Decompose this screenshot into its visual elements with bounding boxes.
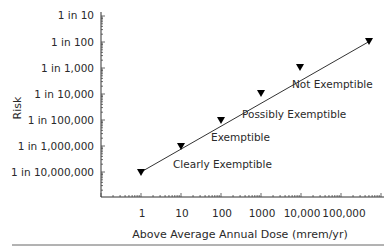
x-tick-label: 1 — [139, 207, 146, 219]
data-line — [141, 41, 370, 172]
x-tick-label: 1000 — [249, 207, 276, 219]
y-tick-label: 1 in 1,000 — [41, 62, 94, 74]
y-ticks — [101, 16, 105, 190]
annotation-exemptible: Exemptible — [211, 131, 270, 143]
chart: 1 in 10 1 in 100 1 in 1,000 1 in 10,000 … — [0, 0, 391, 247]
x-tick-label: 10,000 — [284, 207, 321, 219]
x-tick-label: 100 — [212, 207, 232, 219]
y-tick-label: 1 in 10,000,000 — [11, 166, 94, 178]
annotation-possibly-exemptible: Possibly Exemptible — [242, 108, 346, 120]
marker-down-triangle — [177, 143, 185, 150]
marker-down-triangle — [217, 117, 225, 124]
annotation-clearly-exemptible: Clearly Exemptible — [173, 158, 272, 170]
marker-down-triangle — [137, 169, 145, 176]
y-axis-title: Risk — [11, 96, 24, 119]
x-tick-label: 10 — [175, 207, 188, 219]
y-tick-label: 1 in 10 — [58, 9, 94, 21]
marker-down-triangle — [257, 90, 265, 97]
marker-down-triangle — [365, 38, 373, 45]
x-tick-label: 100,000 — [322, 207, 365, 219]
annotation-not-exemptible: Not Exemptible — [292, 78, 373, 90]
y-tick-label: 1 in 100 — [51, 36, 94, 48]
x-axis-title: Above Average Annual Dose (mrem/yr) — [132, 228, 347, 241]
y-tick-label: 1 in 100,000 — [28, 114, 94, 126]
x-ticks — [101, 193, 381, 197]
y-tick-label: 1 in 10,000 — [34, 88, 94, 100]
marker-down-triangle — [296, 64, 304, 71]
y-tick-label: 1 in 1,000,000 — [18, 140, 94, 152]
